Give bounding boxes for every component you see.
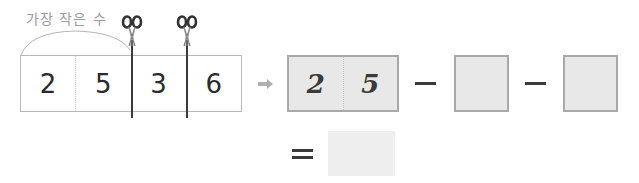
equals-sign [292, 149, 313, 159]
minus-sign [415, 82, 436, 85]
minus-sign [525, 82, 546, 85]
digit-card: 6 [186, 56, 241, 111]
arrow-right-icon [258, 79, 273, 89]
scissors-icon [121, 15, 143, 47]
result-answer-box[interactable] [328, 131, 395, 176]
scissors-icon [176, 15, 198, 47]
smallest-number-answer-box[interactable]: 2 5 [287, 55, 399, 112]
blank-answer-box-1[interactable] [454, 55, 509, 112]
cut-line [186, 40, 188, 118]
blank-answer-box-2[interactable] [563, 55, 618, 112]
answer-digit: 2 [289, 57, 343, 110]
cut-line [131, 40, 133, 118]
digit-card: 2 [21, 56, 75, 111]
digit-card: 3 [131, 56, 186, 111]
answer-digit: 5 [343, 57, 398, 110]
digit-card: 5 [75, 56, 130, 111]
